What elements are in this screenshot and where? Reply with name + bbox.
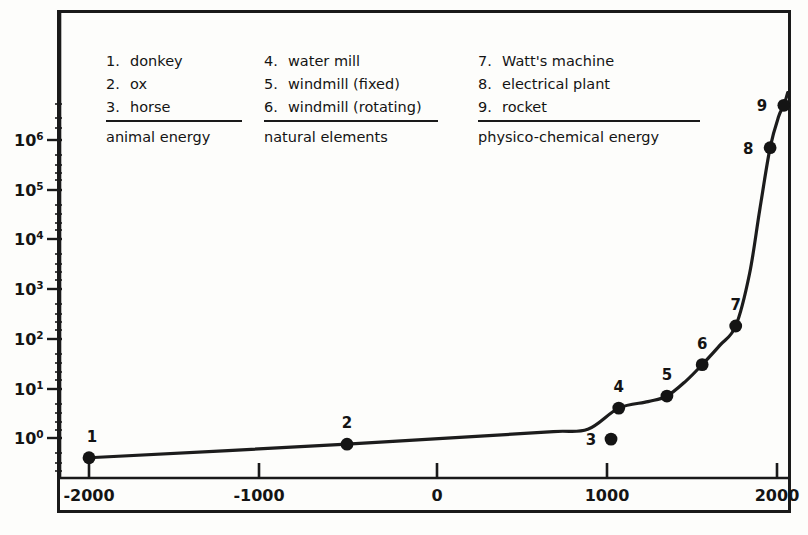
data-point-3	[605, 433, 618, 446]
data-point-markers: 123456789	[83, 97, 791, 464]
y-tick-exp-2: 2	[36, 329, 43, 341]
y-tick-base-6: 10	[14, 131, 36, 150]
legend-num-5: 5.	[264, 76, 278, 92]
data-curve	[89, 93, 788, 458]
legend-num-9: 9.	[478, 99, 492, 115]
plot-frame	[59, 12, 790, 512]
y-tick-exp-0: 0	[36, 428, 43, 440]
y-tick-exp-4: 4	[36, 229, 43, 241]
chart-svg: 106 105 104 103 102 101 100	[0, 0, 808, 535]
data-point-label-4: 4	[614, 378, 624, 396]
data-point-5	[661, 390, 674, 403]
data-point-label-5: 5	[662, 366, 672, 384]
data-point-9	[777, 99, 790, 112]
x-axis-ticks	[89, 463, 777, 479]
svg-text:101: 101	[14, 379, 44, 399]
y-tick-base-5: 10	[14, 181, 36, 200]
legend-label-electrical-plant: electrical plant	[502, 76, 610, 92]
y-tick-exp-6: 6	[36, 130, 43, 142]
data-point-8	[764, 141, 777, 154]
svg-text:104: 104	[14, 229, 44, 249]
x-tick-label-4: 2000	[755, 486, 800, 505]
y-tick-exp-5: 5	[36, 180, 43, 192]
legend-num-8: 8.	[478, 76, 492, 92]
legend-label-horse: horse	[130, 99, 171, 115]
legend-category-physico-chemical-energy: physico-chemical energy	[478, 129, 660, 145]
x-tick-label-0: -2000	[63, 486, 114, 505]
legend-column-natural-elements: 4. water mill 5. windmill (fixed) 6. win…	[264, 53, 438, 145]
legend-column-animal-energy: 1. donkey 2. ox 3. horse animal energy	[106, 53, 242, 145]
y-tick-base-1: 10	[14, 380, 36, 399]
legend-category-natural-elements: natural elements	[264, 129, 388, 145]
svg-text:102: 102	[14, 329, 44, 349]
svg-text:100: 100	[14, 428, 44, 448]
legend-label-windmill-fixed: windmill (fixed)	[288, 76, 400, 92]
svg-text:105: 105	[14, 180, 44, 200]
data-point-7	[729, 320, 742, 333]
data-point-label-8: 8	[743, 140, 753, 158]
y-tick-base-2: 10	[14, 330, 36, 349]
legend-label-rocket: rocket	[502, 99, 547, 115]
data-point-label-7: 7	[731, 296, 741, 314]
data-point-label-3: 3	[586, 431, 596, 449]
svg-text:106: 106	[14, 130, 44, 150]
legend-label-ox: ox	[130, 76, 147, 92]
legend-num-7: 7.	[478, 53, 492, 69]
y-tick-base-3: 10	[14, 280, 36, 299]
legend-num-6: 6.	[264, 99, 278, 115]
legend-label-windmill-rotating: windmill (rotating)	[288, 99, 422, 115]
data-point-label-1: 1	[87, 428, 97, 446]
chart-figure: 106 105 104 103 102 101 100	[0, 0, 808, 535]
data-point-1	[83, 451, 96, 464]
data-point-label-2: 2	[342, 414, 352, 432]
x-axis-tick-labels: -2000 -1000 0 1000 2000	[63, 486, 799, 505]
data-point-label-6: 6	[697, 335, 707, 353]
legend-num-1: 1.	[106, 53, 120, 69]
legend-num-3: 3.	[106, 99, 120, 115]
legend-category-animal-energy: animal energy	[106, 129, 211, 145]
data-point-2	[341, 438, 354, 451]
y-axis-tick-labels: 106 105 104 103 102 101 100	[14, 130, 44, 448]
legend: 1. donkey 2. ox 3. horse animal energy 4…	[106, 53, 700, 145]
x-tick-label-1: -1000	[233, 486, 284, 505]
y-tick-base-4: 10	[14, 230, 36, 249]
legend-column-physico-chemical-energy: 7. Watt's machine 8. electrical plant 9.…	[478, 53, 700, 145]
data-point-4	[612, 402, 625, 415]
legend-num-2: 2.	[106, 76, 120, 92]
legend-num-4: 4.	[264, 53, 278, 69]
legend-label-watts-machine: Watt's machine	[502, 53, 614, 69]
svg-text:103: 103	[14, 279, 44, 299]
legend-label-water-mill: water mill	[288, 53, 360, 69]
y-tick-exp-1: 1	[36, 379, 43, 391]
data-point-6	[696, 358, 709, 371]
data-point-label-9: 9	[757, 97, 767, 115]
x-tick-label-3: 1000	[585, 486, 630, 505]
y-tick-exp-3: 3	[36, 279, 43, 291]
legend-label-donkey: donkey	[130, 53, 183, 69]
x-tick-label-2: 0	[431, 486, 442, 505]
y-tick-base-0: 10	[14, 429, 36, 448]
